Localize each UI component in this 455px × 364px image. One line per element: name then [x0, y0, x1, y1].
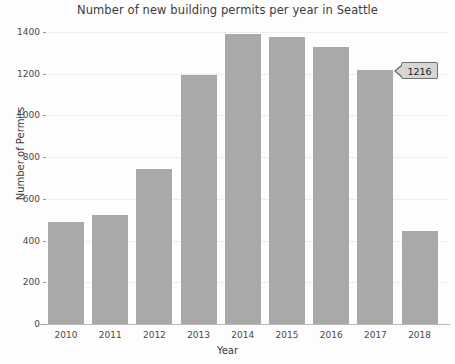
bar-2013[interactable] [181, 75, 217, 324]
y-axis-tick-label: 200 [0, 278, 40, 287]
x-axis-tick-label-2013: 2013 [177, 330, 221, 340]
y-axis-tick-label: 800 [0, 153, 40, 162]
x-axis-tick-label-2016: 2016 [309, 330, 353, 340]
bar-2012[interactable] [136, 169, 172, 324]
bar-2016[interactable] [313, 47, 349, 324]
x-axis-tick-label-2011: 2011 [88, 330, 132, 340]
bar-2015[interactable] [269, 37, 305, 324]
tooltip-arrow-icon [396, 66, 402, 76]
y-axis-tick-mark [43, 324, 46, 325]
y-axis-tick-label: 600 [0, 195, 40, 204]
x-axis-tick-label-2015: 2015 [265, 330, 309, 340]
bar-value-tooltip: 1216 [401, 62, 437, 79]
gridline [46, 32, 447, 33]
bar-2011[interactable] [92, 215, 128, 324]
x-axis-tick-label-2014: 2014 [221, 330, 265, 340]
tooltip-value: 1216 [407, 66, 431, 77]
chart-title: Number of new building permits per year … [0, 3, 455, 17]
x-axis-label: Year [0, 345, 455, 356]
y-axis-tick-label: 1000 [0, 111, 40, 120]
y-axis-tick-label: 1200 [0, 70, 40, 79]
x-axis-tick-label-2017: 2017 [353, 330, 397, 340]
x-axis-line [40, 324, 450, 325]
plot-area [46, 32, 447, 324]
x-axis-tick-label-2010: 2010 [44, 330, 88, 340]
bar-2017[interactable] [357, 70, 393, 324]
bar-2018[interactable] [402, 231, 438, 324]
bar-2014[interactable] [225, 34, 261, 324]
y-axis-tick-label: 400 [0, 237, 40, 246]
y-axis-tick-label: 1400 [0, 28, 40, 37]
bar-2010[interactable] [48, 222, 84, 324]
bar-chart-figure: Number of new building permits per year … [0, 0, 455, 364]
y-axis-tick-label: 0 [0, 320, 40, 329]
x-axis-tick-label-2018: 2018 [398, 330, 442, 340]
x-axis-tick-label-2012: 2012 [132, 330, 176, 340]
